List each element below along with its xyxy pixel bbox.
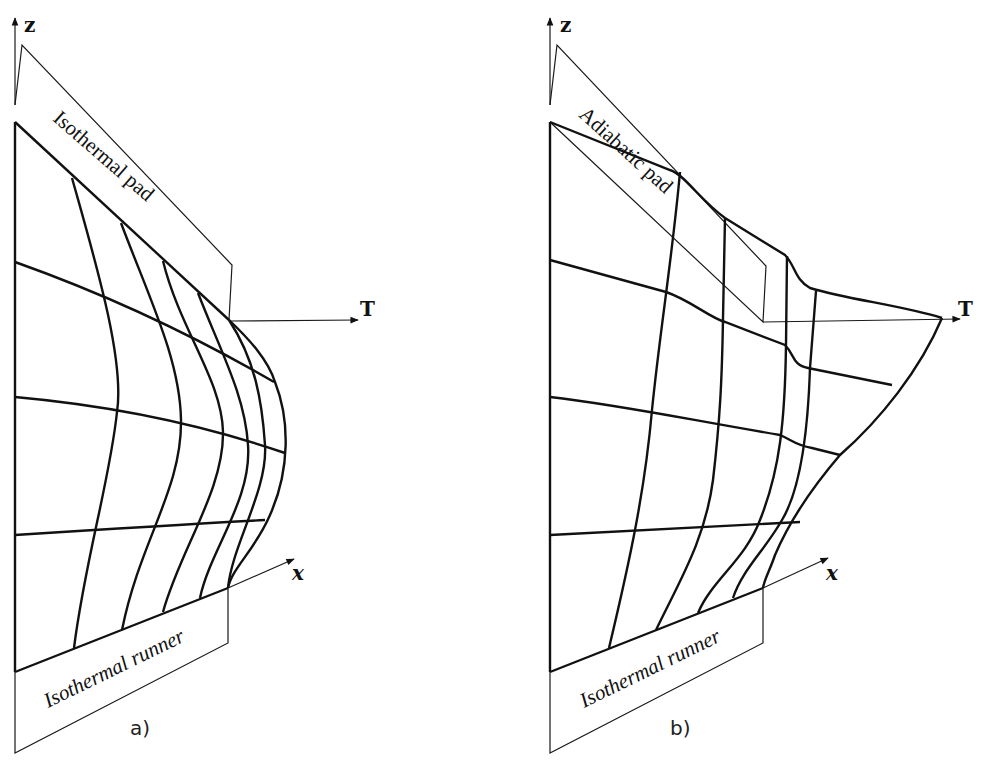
- z-axis-label: z: [24, 13, 35, 37]
- T-axis-label: T: [958, 297, 973, 321]
- x-axis-label: x: [291, 561, 305, 585]
- z-axis-label: z: [560, 13, 571, 37]
- T-axis: [229, 320, 358, 321]
- x-axis-label: x: [825, 561, 839, 585]
- figure-canvas: z Isothermal pad T: [0, 0, 986, 767]
- temperature-surface: [15, 122, 286, 672]
- pad-label: Isothermal pad: [49, 106, 160, 207]
- T-axis-label: T: [360, 297, 375, 321]
- runner-label: Isothermal runner: [39, 623, 189, 713]
- temperature-surface: [550, 122, 942, 672]
- runner-label: Isothermal runner: [575, 623, 725, 713]
- panel-caption: b): [670, 716, 691, 740]
- pad-label: Adiabatic pad: [575, 102, 679, 199]
- panel-a: z Isothermal pad T: [15, 13, 375, 753]
- panel-b: z Adiabatic pad T x: [550, 13, 973, 753]
- x-axis: [228, 559, 294, 588]
- panel-caption: a): [130, 716, 150, 740]
- T-axis: [763, 319, 960, 322]
